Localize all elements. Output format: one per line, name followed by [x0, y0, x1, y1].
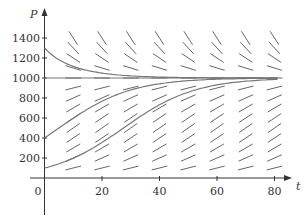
- svg-text:600: 600: [19, 112, 40, 125]
- svg-text:t: t: [296, 180, 301, 193]
- svg-text:800: 800: [19, 92, 40, 105]
- direction-field-chart: Pt200400600800100012001400020406080: [0, 0, 308, 217]
- svg-text:20: 20: [95, 185, 109, 198]
- svg-text:P: P: [29, 8, 38, 21]
- svg-text:40: 40: [153, 185, 167, 198]
- svg-text:0: 0: [35, 185, 42, 198]
- svg-text:1200: 1200: [12, 52, 40, 65]
- svg-text:400: 400: [19, 132, 40, 145]
- svg-text:1000: 1000: [12, 72, 40, 85]
- solution-curve: [45, 48, 278, 78]
- svg-text:1400: 1400: [12, 32, 40, 45]
- svg-text:80: 80: [268, 185, 282, 198]
- svg-text:60: 60: [210, 185, 224, 198]
- svg-text:200: 200: [19, 152, 40, 165]
